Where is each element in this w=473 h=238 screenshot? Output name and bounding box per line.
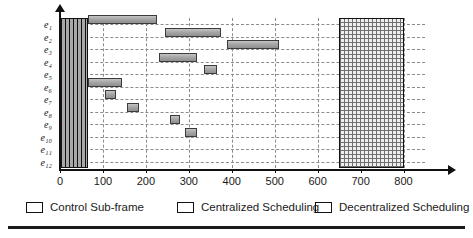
x-axis-label-300: 300 <box>180 175 198 187</box>
legend-swatch-decentralized-icon <box>315 202 332 213</box>
legend-swatch-centralized-icon <box>177 202 194 213</box>
x-axis-label-600: 600 <box>308 175 326 187</box>
decentralized-scheduling-region <box>339 18 403 168</box>
x-axis-label-0: 0 <box>57 175 63 187</box>
x-axis-label-200: 200 <box>137 175 155 187</box>
x-axis-line <box>59 169 449 171</box>
gridline-vertical <box>318 18 319 168</box>
task-bar-e3 <box>227 40 279 49</box>
legend-swatch-control-icon <box>26 202 43 213</box>
y-axis-line <box>59 10 61 170</box>
y-axis-label-e12: e₁₂ <box>0 156 52 167</box>
gridline-vertical <box>146 18 147 168</box>
gridline-vertical <box>404 18 405 168</box>
task-bar-e8 <box>127 103 140 112</box>
y-axis-label-e9: e₉ <box>0 119 52 130</box>
legend-item-control: Control Sub-frame <box>26 201 144 213</box>
x-axis-label-700: 700 <box>351 175 369 187</box>
legend-item-decentralized: Decentralized Scheduling <box>315 201 469 213</box>
x-axis-tick <box>318 169 319 173</box>
task-bar-e7 <box>105 90 116 99</box>
legend-item-centralized: Centralized Scheduling <box>177 201 319 213</box>
y-axis-arrow-icon <box>55 4 65 12</box>
task-bar-e6 <box>88 78 122 87</box>
x-axis-arrow-icon <box>448 165 456 175</box>
y-axis-label-e7: e₇ <box>0 94 52 105</box>
task-bar-e2 <box>165 28 221 37</box>
horizontal-rule <box>8 226 465 229</box>
x-axis-tick <box>232 169 233 173</box>
task-bar-e5 <box>204 65 217 74</box>
x-axis-label-400: 400 <box>223 175 241 187</box>
y-axis-label-e6: e₆ <box>0 81 52 92</box>
y-axis-label-e5: e₅ <box>0 69 52 80</box>
control-sub-frame-region <box>60 18 88 168</box>
gridline-vertical <box>189 18 190 168</box>
y-axis-label-e8: e₈ <box>0 106 52 117</box>
legend-label: Decentralized Scheduling <box>339 201 469 213</box>
x-axis-tick <box>146 169 147 173</box>
legend-label: Centralized Scheduling <box>201 201 319 213</box>
x-axis-label-500: 500 <box>266 175 284 187</box>
x-axis-tick <box>103 169 104 173</box>
y-axis-label-e1: e₁ <box>0 19 52 30</box>
task-bar-e9 <box>170 115 181 124</box>
y-axis-label-e10: e₁₀ <box>0 131 52 142</box>
task-bar-e1 <box>88 15 157 24</box>
x-axis-tick <box>404 169 405 173</box>
y-axis-label-e3: e₃ <box>0 44 52 55</box>
y-axis-label-e11: e₁₁ <box>0 144 52 155</box>
plot-area <box>60 18 425 168</box>
y-axis-label-e2: e₂ <box>0 31 52 42</box>
y-axis-label-e4: e₄ <box>0 56 52 67</box>
gridline-vertical <box>103 18 104 168</box>
x-axis-tick <box>361 169 362 173</box>
x-axis-tick <box>189 169 190 173</box>
gantt-schedule-figure: e₁e₂e₃e₄e₅e₆e₇e₈e₉e₁₀e₁₁e₁₂ 010020030040… <box>0 0 473 238</box>
legend: Control Sub-frameCentralized SchedulingD… <box>0 196 473 218</box>
legend-label: Control Sub-frame <box>50 201 144 213</box>
task-bar-e4 <box>159 53 198 62</box>
x-axis-label-800: 800 <box>394 175 412 187</box>
x-axis-tick <box>275 169 276 173</box>
x-axis-tick <box>60 169 61 173</box>
x-axis-label-100: 100 <box>94 175 112 187</box>
task-bar-e10 <box>185 128 198 137</box>
